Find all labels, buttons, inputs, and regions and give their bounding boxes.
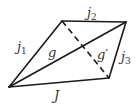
label-j1: j1 xyxy=(14,39,27,56)
label-j3: j3 xyxy=(118,49,131,66)
label-g-prime: g′ xyxy=(97,47,108,62)
label-J: J xyxy=(51,88,60,103)
label-g: g xyxy=(48,45,56,60)
label-j2: j2 xyxy=(84,5,97,22)
quadrilateral-diagram: j2 j1 g g′ j3 J xyxy=(0,0,140,104)
